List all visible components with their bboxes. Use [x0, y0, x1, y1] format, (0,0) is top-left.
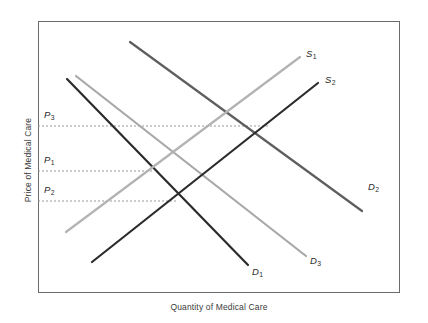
curve-label-s2: S2 [325, 75, 336, 85]
curve-label-d2-subscript: 2 [375, 186, 379, 193]
curve-label-d3: D3 [310, 256, 321, 266]
price-label-p1: P1 [44, 155, 55, 165]
curve-label-d3-letter: D [310, 255, 317, 266]
curve-label-d2: D2 [368, 182, 379, 192]
curve-label-d2-letter: D [368, 181, 375, 192]
price-label-p3-subscript: 3 [50, 114, 54, 121]
price-label-p2: P2 [44, 185, 55, 195]
curve-label-d1-letter: D [252, 266, 259, 277]
curve-label-d3-subscript: 3 [317, 260, 321, 267]
price-label-p3: P3 [44, 110, 55, 120]
plot-frame [38, 21, 400, 293]
curve-label-d1-subscript: 1 [259, 271, 263, 278]
curve-label-s1: S1 [306, 49, 317, 59]
x-axis-title: Quantity of Medical Care [38, 302, 400, 312]
curve-label-s1-subscript: 1 [312, 53, 316, 60]
supply-demand-chart: P3 P1 P2 S1 S2 D1 D2 D3 Price of Medical… [0, 0, 428, 323]
price-label-p2-subscript: 2 [50, 189, 54, 196]
price-label-p1-subscript: 1 [50, 159, 54, 166]
curve-label-s2-subscript: 2 [331, 79, 335, 86]
curve-label-d1: D1 [252, 267, 263, 277]
y-axis-title: Price of Medical Care [23, 85, 33, 235]
